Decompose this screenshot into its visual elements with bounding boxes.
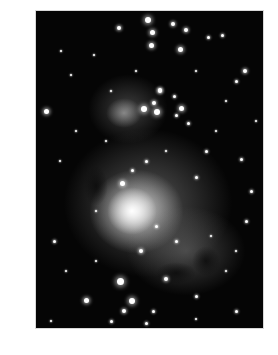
star <box>250 190 253 193</box>
star <box>60 50 62 52</box>
nebula-glow <box>107 187 157 235</box>
star <box>225 270 227 272</box>
star <box>195 176 198 179</box>
star <box>122 309 126 313</box>
star <box>145 160 148 163</box>
star <box>95 210 97 212</box>
dust-lane <box>84 166 108 206</box>
star <box>195 70 197 72</box>
star <box>245 220 248 223</box>
star <box>145 322 148 325</box>
star <box>131 169 134 172</box>
star <box>195 318 197 320</box>
star <box>65 270 67 272</box>
star <box>175 240 178 243</box>
star <box>150 30 155 35</box>
star <box>255 120 257 122</box>
star <box>154 109 160 115</box>
star <box>235 80 238 83</box>
star <box>158 88 162 92</box>
star <box>149 43 154 48</box>
star <box>93 54 95 56</box>
star <box>221 34 224 37</box>
star <box>178 47 183 52</box>
star <box>141 106 147 112</box>
star <box>44 109 49 114</box>
star <box>139 249 143 253</box>
star <box>179 106 184 111</box>
star <box>75 130 77 132</box>
star <box>173 95 176 98</box>
star <box>129 298 135 304</box>
star <box>243 69 247 73</box>
star <box>155 225 158 228</box>
star <box>215 130 217 132</box>
star <box>145 17 151 23</box>
star <box>184 28 188 32</box>
star <box>235 310 238 313</box>
nebula-photo <box>36 11 263 328</box>
star <box>171 22 175 26</box>
star <box>207 36 210 39</box>
star <box>152 101 156 105</box>
star <box>165 150 167 152</box>
star <box>110 90 112 92</box>
star <box>205 150 208 153</box>
star <box>152 310 155 313</box>
star <box>235 250 237 252</box>
star <box>210 235 212 237</box>
nebula-glow <box>89 169 184 254</box>
nebula-glow <box>106 98 142 128</box>
star <box>110 320 113 323</box>
star <box>187 122 190 125</box>
star <box>105 140 107 142</box>
star <box>164 277 168 281</box>
dust-lane <box>156 262 196 284</box>
dust-lane <box>192 246 220 276</box>
star <box>117 278 124 285</box>
star <box>59 160 61 162</box>
star <box>240 158 243 161</box>
star <box>135 70 137 72</box>
star <box>117 26 121 30</box>
star <box>225 100 227 102</box>
nebula-glow <box>126 206 246 296</box>
star <box>70 74 72 76</box>
star <box>84 298 89 303</box>
nebula-glow <box>63 128 233 278</box>
star <box>50 320 52 322</box>
star <box>175 114 178 117</box>
star <box>53 240 56 243</box>
star <box>195 295 198 298</box>
star <box>95 260 97 262</box>
star <box>120 181 125 186</box>
